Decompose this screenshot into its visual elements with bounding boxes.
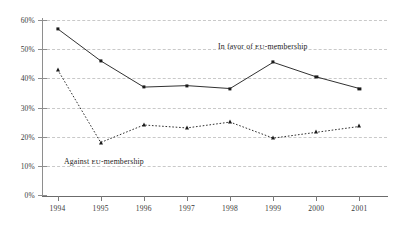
x-axis-label: 1999 bbox=[265, 204, 281, 213]
data-point-marker bbox=[315, 75, 318, 78]
y-axis-label: 50% bbox=[21, 45, 35, 54]
data-point-marker bbox=[272, 61, 275, 64]
eu-abbreviation: EU bbox=[91, 158, 101, 165]
data-point-marker bbox=[99, 59, 102, 62]
data-point-marker bbox=[56, 27, 59, 30]
data-point-marker bbox=[228, 87, 231, 90]
x-axis-tick bbox=[101, 196, 102, 201]
eu-abbreviation: EU bbox=[255, 43, 265, 50]
data-point-marker bbox=[142, 85, 145, 88]
y-axis-tick bbox=[38, 195, 47, 196]
x-axis-line bbox=[42, 196, 388, 197]
x-axis-label: 1997 bbox=[179, 204, 195, 213]
y-axis-label: 60% bbox=[21, 16, 35, 25]
x-axis-label: 1994 bbox=[49, 204, 65, 213]
data-point-marker bbox=[142, 123, 146, 127]
series-line-1 bbox=[58, 29, 360, 89]
data-point-marker bbox=[314, 130, 318, 134]
x-axis-label: 2001 bbox=[351, 204, 367, 213]
data-point-marker bbox=[185, 125, 189, 129]
data-point-marker bbox=[228, 120, 232, 124]
x-axis-tick bbox=[144, 196, 145, 201]
chart-container: 0%10%20%30%40%50%60% 1994199519961997199… bbox=[0, 0, 403, 230]
x-axis-tick bbox=[187, 196, 188, 201]
data-point-marker bbox=[357, 124, 361, 128]
series-label-in-favor: In favor of EU-membership bbox=[218, 42, 308, 51]
x-axis-label: 2000 bbox=[308, 204, 324, 213]
y-axis-label: 30% bbox=[21, 103, 35, 112]
data-point-marker bbox=[358, 87, 361, 90]
y-axis-label: 40% bbox=[21, 74, 35, 83]
y-axis-label: 0% bbox=[25, 191, 35, 200]
data-point-marker bbox=[185, 84, 188, 87]
x-axis-tick bbox=[230, 196, 231, 201]
x-axis-tick bbox=[58, 196, 59, 201]
plot-area: 0%10%20%30%40%50%60% 1994199519961997199… bbox=[42, 20, 387, 195]
data-point-marker bbox=[56, 67, 60, 71]
y-axis-label: 20% bbox=[21, 132, 35, 141]
x-axis-label: 1995 bbox=[93, 204, 109, 213]
y-axis-label: 10% bbox=[21, 161, 35, 170]
x-axis-tick bbox=[316, 196, 317, 201]
series-lines bbox=[42, 20, 387, 195]
series-label-against: Against EU-membership bbox=[64, 157, 144, 166]
data-point-marker bbox=[271, 136, 275, 140]
x-axis-tick bbox=[359, 196, 360, 201]
x-axis-label: 1996 bbox=[136, 204, 152, 213]
x-axis-label: 1998 bbox=[222, 204, 238, 213]
x-axis-tick bbox=[273, 196, 274, 201]
data-point-marker bbox=[99, 140, 103, 144]
